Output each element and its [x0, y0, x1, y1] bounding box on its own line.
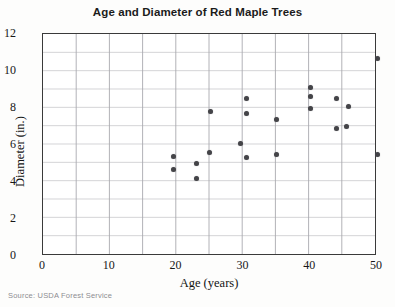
data-point — [346, 104, 351, 109]
x-tick-label: 0 — [25, 258, 59, 273]
data-point — [308, 94, 313, 99]
data-point — [244, 155, 249, 160]
data-point — [274, 117, 279, 122]
chart-title: Age and Diameter of Red Maple Trees — [0, 6, 395, 18]
data-point — [207, 150, 212, 155]
data-point — [244, 96, 249, 101]
plot-area — [42, 33, 376, 255]
data-point — [344, 124, 349, 129]
x-tick-label: 40 — [292, 258, 326, 273]
data-point — [334, 126, 339, 131]
source-note: Source: USDA Forest Service — [8, 291, 112, 300]
data-point — [171, 167, 176, 172]
data-point — [244, 111, 249, 116]
data-point — [375, 152, 380, 157]
data-point — [375, 56, 380, 61]
data-points-layer — [43, 34, 375, 254]
data-point — [171, 154, 176, 159]
data-point — [208, 109, 213, 114]
x-tick-label: 20 — [159, 258, 193, 273]
data-point — [274, 152, 279, 157]
y-tick-label: 12 — [0, 26, 16, 41]
x-tick-label: 50 — [359, 258, 393, 273]
x-tick-label: 10 — [92, 258, 126, 273]
x-axis-title: Age (years) — [42, 276, 376, 291]
data-point — [334, 96, 339, 101]
y-axis-title: Diameter (in.) — [13, 72, 28, 232]
data-point — [194, 176, 199, 181]
y-tick-label: 0 — [0, 248, 16, 263]
x-tick-label: 30 — [225, 258, 259, 273]
data-point — [194, 161, 199, 166]
data-point — [308, 106, 313, 111]
data-point — [238, 141, 243, 146]
scatter-plot-figure: Age and Diameter of Red Maple Trees 0246… — [0, 0, 395, 307]
data-point — [308, 85, 313, 90]
